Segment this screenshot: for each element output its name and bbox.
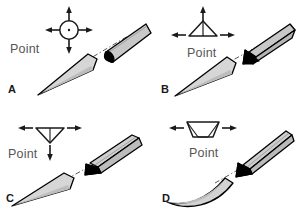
panel-a: Point A: [0, 0, 153, 107]
needle-diagram-c: [12, 135, 142, 206]
symbol-circle-with-center-dot: [45, 6, 93, 54]
point-label-b: Point: [187, 47, 217, 60]
needle-diagram-d: [167, 131, 294, 206]
panel-b: Point B: [153, 0, 306, 107]
needle-point-figure: Point A: [0, 0, 306, 214]
panel-letter-d: D: [162, 193, 170, 204]
needle-diagram-a: [38, 24, 151, 95]
panel-letter-b: B: [161, 84, 169, 95]
point-label-d: Point: [189, 147, 219, 160]
symbol-trapezoid-bowl: [169, 122, 237, 137]
panel-letter-c: C: [6, 193, 14, 204]
panel-d: Point D: [153, 107, 306, 214]
panel-c: Point C: [0, 107, 153, 214]
point-label-c: Point: [8, 148, 38, 161]
symbol-upright-triangle: [171, 6, 235, 38]
panel-letter-a: A: [8, 84, 16, 95]
point-label-a: Point: [10, 43, 40, 56]
